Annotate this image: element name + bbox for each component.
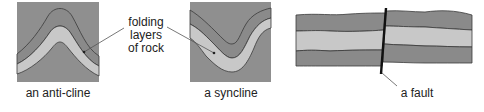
fault-label: a fault [395,87,439,100]
syncline-diagram [190,2,271,82]
anticline-diagram [17,2,99,82]
leader-line-fault [382,73,397,86]
folding-label-line3: of rock [120,42,172,55]
anticline-label: an anti-cline [18,87,98,100]
syncline-label: a syncline [194,87,268,100]
folding-layers-label: folding layers of rock [120,16,172,55]
fault-diagram [296,8,472,86]
